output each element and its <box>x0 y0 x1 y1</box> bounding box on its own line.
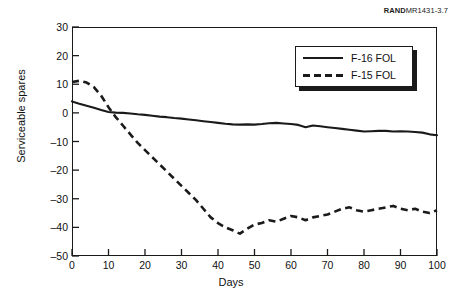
legend-box: F-16 FOL F-15 FOL <box>295 46 413 87</box>
legend-label-f16-fol: F-16 FOL <box>351 52 396 64</box>
legend-swatch-solid-icon <box>303 52 343 64</box>
series-line-f16-fol <box>72 101 437 135</box>
x-axis-title: Days <box>0 276 462 288</box>
x-axis-ticks <box>72 249 437 256</box>
legend: F-16 FOL F-15 FOL <box>295 46 413 87</box>
x-tick-label: 70 <box>308 260 348 271</box>
x-tick-label: 50 <box>235 260 275 271</box>
y-tick-label: 30 <box>32 22 68 32</box>
y-tick-label: 20 <box>32 51 68 61</box>
legend-entry-f15-fol: F-15 FOL <box>303 67 396 83</box>
x-tick-label: 0 <box>52 260 92 271</box>
x-tick-label: 90 <box>381 260 421 271</box>
source-note-id: MR1431-3.7 <box>406 6 448 15</box>
figure: RANDMR1431-3.7 Serviceable spares 302010… <box>0 0 462 296</box>
y-tick-label: 0 <box>32 108 68 118</box>
legend-label-f15-fol: F-15 FOL <box>351 69 396 81</box>
y-tick-label: –40 <box>32 222 68 232</box>
legend-entry-f16-fol: F-16 FOL <box>303 50 396 66</box>
x-tick-label: 80 <box>344 260 384 271</box>
x-tick-label: 10 <box>89 260 129 271</box>
x-tick-label: 60 <box>271 260 311 271</box>
x-tick-label: 40 <box>198 260 238 271</box>
y-tick-label: 10 <box>32 79 68 89</box>
legend-swatch-dashed-icon <box>303 69 343 81</box>
x-tick-label: 30 <box>162 260 202 271</box>
y-tick-label: –20 <box>32 165 68 175</box>
series-line-f15-fol <box>72 81 437 234</box>
y-axis-tick-labels: 3020100–10–20–30–40–50 <box>24 0 68 296</box>
x-tick-label: 20 <box>125 260 165 271</box>
y-axis-ticks <box>72 27 79 256</box>
x-axis-tick-labels: 0102030405060708090100 <box>0 260 462 276</box>
x-tick-label: 100 <box>417 260 457 271</box>
y-tick-label: –30 <box>32 194 68 204</box>
source-note-brand: RAND <box>384 6 406 15</box>
y-tick-label: –10 <box>32 137 68 147</box>
source-note: RANDMR1431-3.7 <box>384 6 448 15</box>
